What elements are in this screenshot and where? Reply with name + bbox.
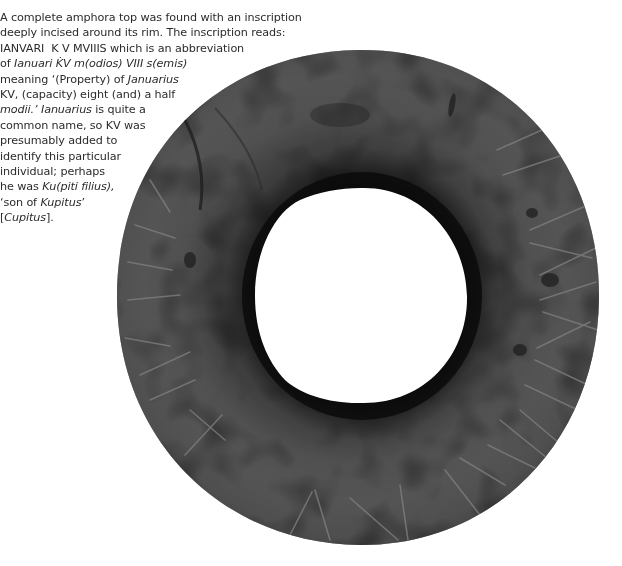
caption-line: [Cupitus].	[0, 210, 302, 225]
caption-run: he was	[0, 180, 42, 193]
caption-line: presumably added to	[0, 133, 302, 148]
caption-line: individual; perhaps	[0, 164, 302, 179]
caption-italic-run: modii.’ Ianuarius	[0, 103, 92, 116]
caption-run: is quite a	[92, 103, 146, 116]
caption-italic-run: Kupitus	[40, 196, 81, 209]
caption-run: of	[0, 57, 14, 70]
caption-italic-run: Ku(piti filius),	[42, 180, 114, 193]
caption-run: ].	[46, 211, 54, 224]
caption-run: ‘son of	[0, 196, 40, 209]
caption-text-block: A complete amphora top was found with an…	[0, 10, 302, 225]
caption-line: meaning ‘(Property) of Januarius	[0, 72, 302, 87]
caption-run: individual; perhaps	[0, 165, 105, 178]
caption-line: deeply incised around its rim. The inscr…	[0, 25, 302, 40]
caption-run: A complete amphora top was found with an…	[0, 11, 302, 24]
caption-line: he was Ku(piti filius),	[0, 179, 302, 194]
caption-line: ‘son of Kupitus’	[0, 195, 302, 210]
caption-line: identify this particular	[0, 149, 302, 164]
caption-line: A complete amphora top was found with an…	[0, 10, 302, 25]
caption-line: of Ianuari K̇V m(odios) VIII s(emis)	[0, 56, 302, 71]
caption-run: identify this particular	[0, 150, 121, 163]
caption-line: KV, (capacity) eight (and) a half	[0, 87, 302, 102]
caption-run: KV, (capacity) eight (and) a half	[0, 88, 175, 101]
caption-run: common name, so KV was	[0, 119, 146, 132]
caption-line: modii.’ Ianuarius is quite a	[0, 102, 302, 117]
caption-run: presumably added to	[0, 134, 117, 147]
caption-line: IANVARI K V MVIIIS which is an abbreviat…	[0, 41, 302, 56]
caption-line: common name, so KV was	[0, 118, 302, 133]
caption-run: meaning ‘(Property) of	[0, 73, 128, 86]
caption-italic-run: Ianuari K̇V m(odios) VIII s(emis)	[14, 57, 187, 70]
caption-italic-run: Cupitus	[4, 211, 46, 224]
caption-italic-run: Januarius	[128, 73, 179, 86]
caption-run: deeply incised around its rim. The inscr…	[0, 26, 285, 39]
caption-run: IANVARI K V MVIIIS which is an abbreviat…	[0, 42, 244, 55]
caption-run: ’	[81, 196, 84, 209]
